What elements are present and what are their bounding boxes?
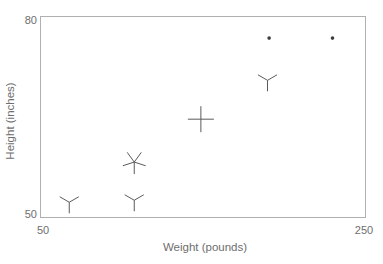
y-tick-label-50: 50 [8,208,37,220]
data-point-dot [331,36,335,40]
x-axis-title: Weight (pounds) [55,240,355,254]
data-point-sunflower-4 [188,106,214,132]
plot-area [0,0,383,264]
data-point-sunflower-3 [125,195,144,212]
data-point-sunflower-3 [60,197,79,214]
plot-frame [41,17,366,218]
y-tick-label-80: 80 [8,14,37,26]
data-point-sunflower-3 [258,75,277,92]
data-point-sunflower-5 [123,152,146,174]
x-tick-label-250: 250 [349,224,379,236]
y-axis-title: Height (inches) [3,81,17,161]
data-point-dot [267,36,271,40]
sunflower-scatter-figure: 80 50 50 250 Weight (pounds) Height (inc… [0,0,383,264]
x-tick-label-50: 50 [33,224,53,236]
